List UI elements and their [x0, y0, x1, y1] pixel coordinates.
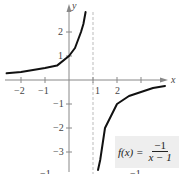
curve-left-branch: [7, 12, 86, 73]
x-axis-arrow-icon: [160, 78, 168, 83]
formula-fraction: −1 x − 1: [146, 140, 173, 163]
graph-figure: −2 −1 1 2 2 1 −1 −2 −3 y x f(x) = −1 x −…: [0, 0, 179, 174]
x-tick-label: −1: [38, 85, 49, 96]
function-formula: f(x) = −1 x − 1: [118, 140, 174, 163]
y-tick-label: 2: [58, 26, 63, 37]
y-tick-label: 1: [58, 50, 63, 61]
cropped-text-right: −1: [130, 168, 141, 174]
y-tick-label: −3: [53, 146, 64, 157]
formula-denominator: x − 1: [146, 152, 173, 163]
y-axis-arrow-icon: [67, 4, 72, 12]
x-tick-label: 2: [115, 85, 120, 96]
x-tick-label: 1: [95, 85, 100, 96]
y-tick-label: −1: [53, 98, 64, 109]
x-tick-label: −2: [14, 85, 25, 96]
y-tick-label: −2: [53, 122, 64, 133]
formula-lhs: f(x) =: [118, 146, 143, 158]
y-axis-label: y: [71, 0, 77, 11]
x-axis-label: x: [170, 74, 176, 85]
cropped-text-left: −1: [40, 168, 51, 174]
